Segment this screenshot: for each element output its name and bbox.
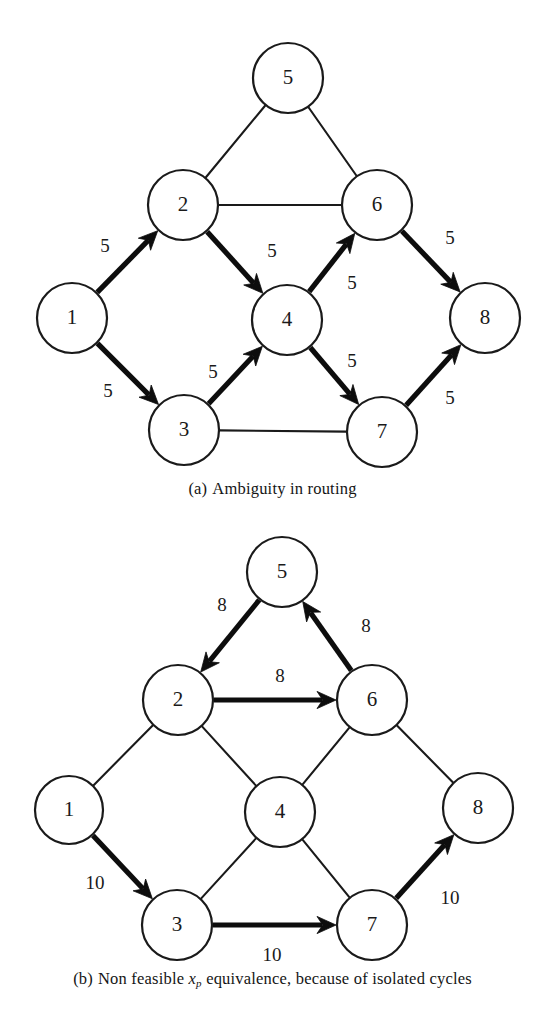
graph-node-2[interactable]: 2 — [148, 170, 218, 240]
edge-weight-label: 8 — [361, 615, 371, 636]
node-label: 3 — [179, 417, 190, 441]
edge-weight-label: 5 — [208, 361, 218, 382]
edge-line — [311, 613, 352, 671]
node-label: 1 — [67, 305, 78, 329]
edge-weight-label: 5 — [267, 240, 277, 261]
node-label: 4 — [282, 307, 293, 331]
graph-node-8[interactable]: 8 — [443, 773, 513, 843]
edge-2-4 — [207, 232, 263, 294]
edge-4-6 — [303, 728, 349, 784]
edge-5-2 — [206, 106, 265, 178]
edge-weight-label: 8 — [275, 665, 285, 686]
edge-line — [303, 728, 349, 784]
caption-a: (a)Ambiguity in routing — [0, 479, 545, 499]
edge-weight-label: 10 — [441, 887, 460, 908]
graph-node-6[interactable]: 6 — [342, 170, 412, 240]
node-label: 6 — [372, 192, 383, 216]
node-label: 5 — [283, 65, 294, 89]
edge-weight-label: 5 — [347, 272, 357, 293]
caption-b-tag: (b) — [73, 969, 93, 988]
node-label: 3 — [172, 912, 183, 936]
edge-line — [94, 726, 153, 786]
graph-node-1[interactable]: 1 — [35, 776, 103, 844]
edge-6-8 — [397, 726, 453, 783]
edge-line — [397, 726, 453, 783]
edge-line — [309, 244, 346, 292]
edge-3-7 — [220, 430, 346, 431]
edge-3-7 — [213, 916, 336, 933]
caption-a-text: Ambiguity in routing — [212, 479, 356, 498]
edge-line — [201, 839, 255, 899]
caption-b-prefix: Non feasible — [98, 969, 184, 988]
graph-node-3[interactable]: 3 — [149, 395, 219, 465]
graph-node-3[interactable]: 3 — [142, 890, 212, 960]
edge-weight-label: 5 — [445, 387, 455, 408]
figure-root: 5261483755555555 (a)Ambiguity in routing… — [0, 0, 545, 1025]
node-label: 2 — [173, 687, 184, 711]
edge-line — [396, 845, 444, 899]
node-label: 6 — [367, 687, 378, 711]
edge-weight-label: 8 — [217, 594, 227, 615]
edge-1-2 — [94, 726, 153, 786]
edge-weight-label: 5 — [100, 235, 110, 256]
graph-node-7[interactable]: 7 — [337, 890, 407, 960]
graph-node-8[interactable]: 8 — [450, 283, 520, 353]
graph-node-4[interactable]: 4 — [252, 285, 322, 355]
edge-line — [309, 107, 357, 175]
figure-panel-a: 5261483755555555 (a)Ambiguity in routing — [0, 0, 545, 512]
caption-b-variable: xp — [184, 969, 202, 988]
edge-line — [207, 232, 254, 283]
edge-weight-label: 5 — [445, 227, 455, 248]
graph-node-4[interactable]: 4 — [245, 777, 315, 847]
edge-2-4 — [202, 727, 256, 786]
node-label: 1 — [64, 797, 75, 821]
edge-6-5 — [303, 601, 352, 670]
edge-line — [303, 840, 350, 897]
edge-line — [310, 347, 350, 394]
node-label: 4 — [275, 799, 286, 823]
node-label: 7 — [377, 419, 388, 443]
node-label: 8 — [473, 795, 484, 819]
figure-panel-b: 52614837888101010 (b)Non feasible xp equ… — [0, 512, 545, 1025]
graph-node-6[interactable]: 6 — [337, 665, 407, 735]
node-label: 7 — [367, 912, 378, 936]
edge-2-6 — [214, 691, 336, 708]
edge-3-4 — [201, 839, 255, 899]
graph-diagram-a: 5261483755555555 — [0, 0, 545, 478]
edge-5-6 — [309, 107, 357, 175]
node-label: 8 — [480, 305, 491, 329]
edge-line — [220, 430, 346, 431]
node-label: 2 — [178, 192, 189, 216]
graph-node-2[interactable]: 2 — [143, 665, 213, 735]
edge-weight-label: 5 — [347, 350, 357, 371]
edge-4-7 — [303, 840, 350, 897]
caption-a-tag: (a) — [188, 479, 207, 498]
graph-node-5[interactable]: 5 — [253, 43, 323, 113]
caption-b: (b)Non feasible xp equivalence, because … — [0, 969, 545, 989]
edge-line — [402, 231, 451, 282]
graph-node-5[interactable]: 5 — [247, 537, 317, 607]
edge-5-2 — [201, 600, 260, 672]
caption-b-variable-subscript: p — [196, 977, 202, 989]
graph-node-7[interactable]: 7 — [347, 397, 417, 467]
edge-weight-label: 10 — [86, 872, 105, 893]
edge-line — [206, 106, 265, 178]
graph-node-1[interactable]: 1 — [37, 283, 107, 353]
graph-diagram-b: 52614837888101010 — [0, 512, 545, 962]
edge-weight-label: 10 — [263, 944, 282, 962]
caption-b-variable-base: x — [189, 969, 197, 988]
edge-weight-label: 5 — [103, 380, 113, 401]
edge-line — [202, 727, 256, 786]
node-label: 5 — [277, 559, 288, 583]
caption-b-suffix: equivalence, because of isolated cycles — [206, 969, 472, 988]
